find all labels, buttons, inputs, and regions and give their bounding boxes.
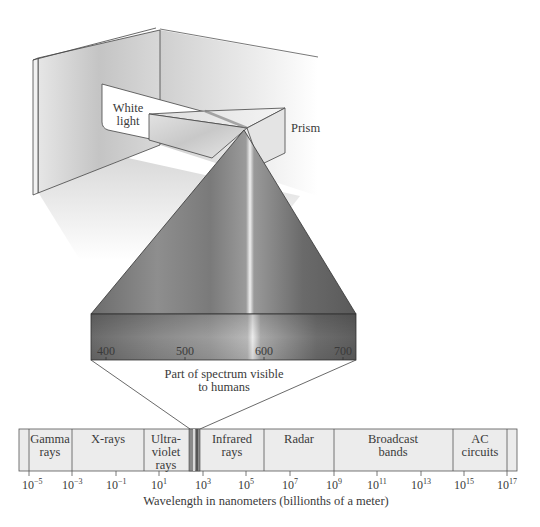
- band-gamma-1: Gamma: [30, 432, 70, 446]
- band-infrared-2: rays: [222, 445, 243, 459]
- band-radar: Radar: [284, 432, 315, 446]
- band-broadcast-2: bands: [378, 445, 407, 459]
- axis-tick-12: 1017: [497, 477, 517, 492]
- band-ac-1: AC: [471, 432, 488, 446]
- left-wall-edge: [33, 58, 38, 195]
- band-broadcast-1: Broadcast: [368, 432, 419, 446]
- prism-label: Prism: [291, 121, 320, 135]
- band-ac-2: circuits: [462, 445, 499, 459]
- tick-500: 500: [176, 344, 194, 358]
- visible-spectrum-band: 400 500 600 700: [91, 314, 356, 360]
- axis-tick-7: 107: [282, 477, 298, 492]
- band-xray: X-rays: [91, 432, 125, 446]
- axis-tick-3: 10−1: [106, 477, 127, 492]
- axis-tick-11: 1015: [454, 477, 474, 492]
- axis-tick-4: 101: [151, 477, 167, 492]
- em-spectrum-bar: Gamma rays X-rays Ultra- violet rays Inf…: [19, 429, 517, 472]
- axis-label: Wavelength in nanometers (billionths of …: [143, 494, 388, 508]
- axis-tick-9: 1011: [367, 477, 387, 492]
- tick-600: 600: [255, 344, 273, 358]
- band-infrared-1: Infrared: [212, 432, 253, 446]
- band-uv-2: violet: [152, 445, 181, 459]
- visible-caption-2: to humans: [198, 380, 250, 394]
- axis-tick-1: 10−5: [22, 477, 43, 492]
- axis-tick-6: 105: [238, 477, 254, 492]
- tick-400: 400: [97, 344, 115, 358]
- band-uv-1: Ultra-: [151, 432, 181, 446]
- band-gamma-2: rays: [40, 445, 61, 459]
- visible-caption-1: Part of spectrum visible: [164, 367, 284, 381]
- white-light-label-2: light: [117, 114, 140, 128]
- band-uv-3: rays: [156, 458, 177, 472]
- wavelength-axis: 10−5 10−3 10−1 101 103 105 107 109 1011 …: [22, 471, 517, 508]
- spectrum-diagram: White light Prism 400 500 600 700 Part o…: [0, 0, 540, 527]
- axis-tick-2: 10−3: [62, 477, 83, 492]
- tick-700: 700: [334, 344, 352, 358]
- axis-tick-10: 1013: [411, 477, 431, 492]
- axis-tick-5: 103: [195, 477, 211, 492]
- axis-tick-8: 109: [326, 477, 342, 492]
- white-light-label-1: White: [113, 101, 144, 115]
